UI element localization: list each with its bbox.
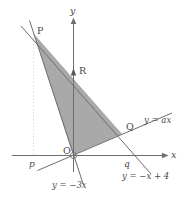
point-label-q: Q xyxy=(126,122,134,132)
shaded-triangle-region xyxy=(34,34,122,155)
equation-label-y-equals-minus-3x: y = −3x xyxy=(52,181,87,190)
r-marker-arrow-icon xyxy=(71,68,76,76)
coordinate-geometry-figure: P Q R O y x p q y = ax y = −x + 4 y = −3… xyxy=(0,0,190,201)
point-label-p: P xyxy=(37,26,43,36)
equation-label-y-equals-ax: y = ax xyxy=(144,116,171,125)
point-label-r: R xyxy=(79,66,86,76)
equation-label-y-equals-minus-x-plus-4: y = −x + 4 xyxy=(122,172,169,181)
line-y-equals-minus-x-plus-4 xyxy=(21,26,151,174)
x-tick-label-q: q xyxy=(124,160,130,169)
y-axis-arrow-icon xyxy=(71,18,77,25)
x-axis-label: x xyxy=(171,150,176,160)
x-axis-arrow-icon xyxy=(162,153,169,159)
origin-marker xyxy=(70,152,76,158)
y-axis-label: y xyxy=(70,6,75,16)
x-tick-label-p: p xyxy=(29,160,35,169)
origin-label: O xyxy=(63,146,71,156)
